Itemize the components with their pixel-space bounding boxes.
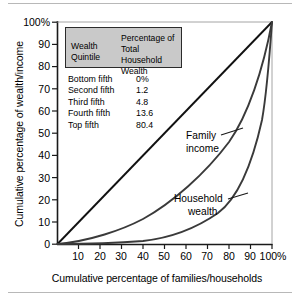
table-cell-value: 13.6 [126,108,178,119]
table-cell-quintile: Second fifth [65,85,126,96]
table-cell-quintile: Third fifth [65,97,126,108]
household-wealth-leader [228,193,248,199]
lorenz-curve-figure: Cumulative percentage of wealth/income C… [0,0,300,299]
table-cell-quintile: Top fifth [65,120,126,131]
table-cell-value: 80.4 [126,120,178,131]
table-cell-value: 0% [126,74,178,85]
y-tick-label: 40 [10,149,50,161]
y-tick-marks [52,22,57,244]
household-wealth-callout-line1: Household [174,193,223,206]
y-tick-label: 20 [10,194,50,206]
y-tick-label: 10 [10,216,50,228]
table-header-right: Percentage of Total Household Wealth [121,31,176,67]
table-body: Bottom fifth 0% Second fifth 1.2 Third f… [65,68,182,131]
table-row: Third fifth 4.8 [65,97,182,108]
household-wealth-callout: Household wealth [174,193,223,218]
table-header-right-line2: Total Household [121,44,176,66]
table-header-left-line2: Quintile [71,52,121,63]
family-income-callout-line2: income [186,143,219,156]
x-tick-label: 40 [137,250,149,262]
table-row: Bottom fifth 0% [65,74,182,85]
table-cell-quintile: Bottom fifth [65,74,126,85]
y-tick-label: 60 [10,105,50,117]
table-header-left: Wealth Quintile [71,41,121,67]
table-header: Wealth Quintile Percentage of Total Hous… [65,27,182,68]
y-tick-label: 70 [10,83,50,95]
x-tick-label: 20 [94,250,106,262]
y-tick-label: 100% [10,16,50,28]
table-cell-quintile: Fourth fifth [65,108,126,119]
table-cell-value: 1.2 [126,85,178,96]
y-tick-label: 50 [10,127,50,139]
x-axis-title: Cumulative percentage of families/househ… [30,272,284,284]
x-tick-label: 80 [223,250,235,262]
x-tick-label: 50 [158,250,170,262]
wealth-quintile-table: Wealth Quintile Percentage of Total Hous… [65,27,182,131]
y-tick-label: 80 [10,60,50,72]
x-tick-label: 100% [260,250,287,262]
x-tick-label: 70 [201,250,213,262]
family-income-callout-line1: Family [186,130,219,143]
family-income-callout: Family income [186,130,219,155]
y-tick-label: 0 [10,238,50,250]
table-row: Top fifth 80.4 [65,120,182,131]
table-row: Second fifth 1.2 [65,85,182,96]
family-income-leader [221,128,243,135]
table-header-left-line1: Wealth [71,41,121,52]
table-cell-value: 4.8 [126,97,178,108]
x-tick-label: 10 [72,250,84,262]
y-tick-label: 30 [10,172,50,184]
household-wealth-callout-line2: wealth [174,206,223,219]
x-tick-label: 30 [115,250,127,262]
table-row: Fourth fifth 13.6 [65,108,182,119]
table-header-right-line1: Percentage of [121,33,176,44]
x-tick-label: 60 [180,250,192,262]
x-tick-label: 90 [244,250,256,262]
y-tick-label: 90 [10,38,50,50]
